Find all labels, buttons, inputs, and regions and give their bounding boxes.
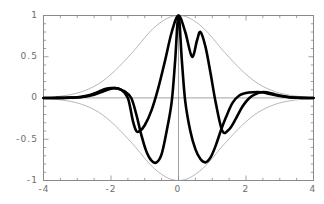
- x-tick-label-4: 4: [302, 185, 324, 194]
- y-tick-label-0: 0: [16, 93, 38, 102]
- y-tick-label-0_5: 0.5: [6, 52, 38, 61]
- x-tick-label-2: 2: [235, 185, 257, 194]
- y-tick-label-neg0_5: -0.5: [2, 135, 38, 144]
- plot-figure: 1 0.5 0 -0.5 -1 -4 -2 0 2 4: [0, 0, 324, 204]
- x-tick-label-neg2: -2: [99, 185, 123, 194]
- x-tick-label-neg4: -4: [32, 185, 56, 194]
- y-tick-label-1: 1: [16, 11, 38, 20]
- x-tick-label-0: 0: [167, 185, 189, 194]
- plot-canvas: [0, 0, 324, 204]
- y-tick-label-neg1: -1: [10, 176, 38, 185]
